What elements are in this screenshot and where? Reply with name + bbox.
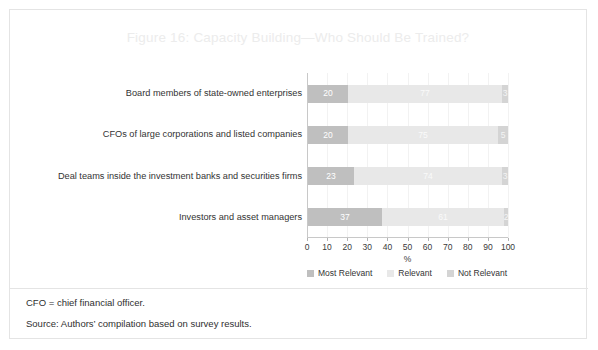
category-axis-labels: Board members of state-owned enterprises… [30,73,302,238]
tick-label: 40 [383,243,392,252]
bar-segment: 37 [308,208,382,226]
x-axis-title: % [307,255,508,264]
category-label: Investors and asset managers [32,213,302,222]
footnotes: CFO = chief financial officer.Source: Au… [26,298,546,339]
footnote: Source: Authors’ compilation based on su… [26,319,546,329]
legend-swatch-icon [307,270,314,277]
chart-plot-wrapper: Board members of state-owned enterprises… [10,10,588,340]
tick-mark [488,238,489,241]
bar-value-label: 74 [423,172,432,181]
tick-mark [408,238,409,241]
tick-mark [508,238,509,241]
category-label: Deal teams inside the investment banks a… [32,172,302,181]
tick-mark [387,238,388,241]
bar-segment: 23 [308,167,354,185]
tick-mark [347,238,348,241]
bar-segment: 20 [308,85,348,103]
bar-segment: 61 [382,208,504,226]
footer-divider [10,288,588,289]
tick-label: 30 [363,243,372,252]
category-label: CFOs of large corporations and listed co… [32,130,302,139]
bar-row: 20773 [308,85,508,103]
chart-legend: Most RelevantRelevantNot Relevant [307,269,547,278]
tick-label: 10 [322,243,331,252]
tick-label: 80 [463,243,472,252]
tick-label: 50 [403,243,412,252]
bar-value-label: 61 [438,213,447,222]
bar-row: 23743 [308,167,508,185]
tick-label: 100 [501,243,515,252]
bar-value-label: 20 [323,89,332,98]
bar-row: 20755 [308,126,508,144]
gridline [508,73,509,238]
tick-label: 70 [443,243,452,252]
legend-label: Relevant [398,269,432,278]
tick-mark [367,238,368,241]
legend-item[interactable]: Not Relevant [447,269,507,278]
bar-value-label: 37 [340,213,349,222]
bar-value-label: 2 [504,213,508,222]
bar-value-label: 5 [501,131,506,140]
bar-value-label: 3 [503,172,508,181]
tick-mark [307,238,308,241]
legend-label: Not Relevant [458,269,507,278]
tick-label: 0 [305,243,310,252]
bar-value-label: 77 [420,89,429,98]
legend-item[interactable]: Most Relevant [307,269,372,278]
tick-mark [327,238,328,241]
footnote: CFO = chief financial officer. [26,298,546,308]
tick-label: 20 [342,243,351,252]
bar-value-label: 20 [323,131,332,140]
bar-segment: 20 [308,126,348,144]
bar-segment: 5 [498,126,508,144]
bar-segment: 3 [502,85,508,103]
legend-item[interactable]: Relevant [387,269,432,278]
legend-swatch-icon [447,270,454,277]
bar-value-label: 23 [326,172,335,181]
bar-segment: 2 [504,208,508,226]
legend-label: Most Relevant [318,269,372,278]
plot-area: 20773207552374337612 [307,73,508,238]
tick-label: 90 [483,243,492,252]
bar-segment: 74 [354,167,502,185]
legend-swatch-icon [387,270,394,277]
bar-value-label: 3 [503,89,508,98]
tick-mark [428,238,429,241]
tick-mark [448,238,449,241]
bar-segment: 75 [348,126,498,144]
tick-mark [468,238,469,241]
bar-value-label: 75 [418,131,427,140]
bar-row: 37612 [308,208,508,226]
category-label: Board members of state-owned enterprises [32,89,302,98]
bar-segment: 77 [348,85,502,103]
figure-card: Figure 16: Capacity Building—Who Should … [9,9,587,339]
bar-segment: 3 [502,167,508,185]
tick-label: 60 [423,243,432,252]
